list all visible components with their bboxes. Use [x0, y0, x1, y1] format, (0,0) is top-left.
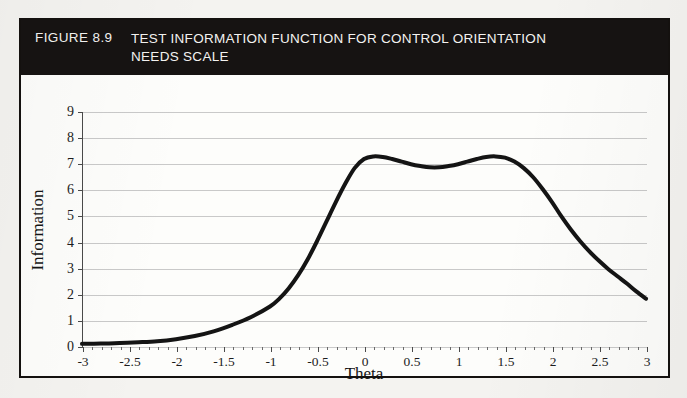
figure-frame: FIGURE 8.9 TEST INFORMATION FUNCTION FOR… [19, 18, 670, 378]
figure-title-line-1: TEST INFORMATION FUNCTION FOR CONTROL OR… [131, 30, 641, 48]
figure-screenshot: FIGURE 8.9 TEST INFORMATION FUNCTION FOR… [0, 0, 687, 398]
x-axis-title: Theta [345, 364, 384, 384]
chart-area: Information 0123456789 -3-2.5-2-1.5-1-0.… [21, 75, 668, 378]
figure-title: TEST INFORMATION FUNCTION FOR CONTROL OR… [131, 30, 641, 66]
information-curve [21, 75, 668, 378]
figure-number-label: FIGURE 8.9 [35, 30, 113, 45]
information-curve-path [82, 156, 646, 344]
figure-banner: FIGURE 8.9 TEST INFORMATION FUNCTION FOR… [21, 20, 668, 75]
figure-title-line-2: NEEDS SCALE [131, 48, 641, 66]
